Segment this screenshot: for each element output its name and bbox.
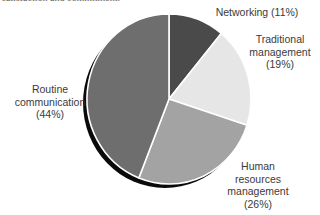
label-traditional-management: Traditional management (19%): [240, 33, 320, 71]
label-networking: Networking (11%): [197, 6, 317, 19]
label-routine-communication: Routine communication (44%): [2, 83, 98, 121]
pie-slices: [87, 14, 251, 184]
label-human-resources-management: Human resources management (26%): [218, 160, 298, 210]
